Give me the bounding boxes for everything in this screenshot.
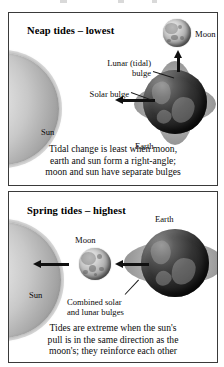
moon-icon [79, 248, 111, 280]
spring-caption-line-3: moon's; they reinforce each other [9, 345, 217, 357]
earth-globe [141, 229, 209, 297]
combined-bulge-label-line1: Combined solar [67, 297, 122, 307]
neap-panel-title: Neap tides – lowest [27, 25, 114, 36]
panel-neap-tides: Sun Earth Moon [8, 12, 218, 186]
spring-sun-label: Sun [29, 290, 42, 300]
moon-icon [163, 19, 191, 47]
arrow-up-icon [174, 50, 181, 72]
spring-caption-line-1: Tides are extreme when the sun's [9, 322, 217, 334]
solar-bulge-label: Solar bulge [51, 89, 129, 99]
sun-icon [9, 222, 61, 338]
arrow-left-icon [33, 260, 69, 269]
neap-caption-line-3: moon and sun have separate bulges [9, 166, 217, 178]
neap-sun-label: Sun [41, 127, 54, 137]
lunar-bulge-leader-line [153, 71, 175, 81]
lunar-bulge-label-line2: bulge [71, 68, 151, 78]
spring-panel-title: Spring tides – highest [27, 205, 126, 216]
neap-caption-line-2: earth and sun form a right-angle; [9, 155, 217, 167]
neap-moon-label: Moon [195, 29, 216, 39]
neap-caption-line-1: Tidal change is least when moon, [9, 143, 217, 155]
spring-caption-line-2: pull is in the same direction as the [9, 334, 217, 346]
spring-caption: Tides are extreme when the sun's pull is… [9, 322, 217, 357]
combined-bulge-leader-line [125, 280, 143, 296]
spring-moon-label: Moon [75, 235, 96, 245]
arrow-left-icon [115, 260, 149, 269]
page-top-crop-remnant [0, 0, 224, 5]
panel-spring-tides: Sun Earth Moon [8, 191, 218, 363]
tides-diagram-page: Sun Earth Moon [0, 0, 224, 367]
combined-bulge-label-line2: and lunar bulges [67, 307, 124, 317]
spring-earth-label: Earth [155, 214, 174, 224]
solar-bulge-leader-line [131, 92, 153, 102]
neap-stage: Sun Earth Moon [9, 13, 217, 185]
lunar-bulge-label-line1: Lunar (tidal) [71, 58, 151, 68]
spring-stage: Sun Earth Moon [9, 192, 217, 362]
neap-caption: Tidal change is least when moon, earth a… [9, 143, 217, 178]
